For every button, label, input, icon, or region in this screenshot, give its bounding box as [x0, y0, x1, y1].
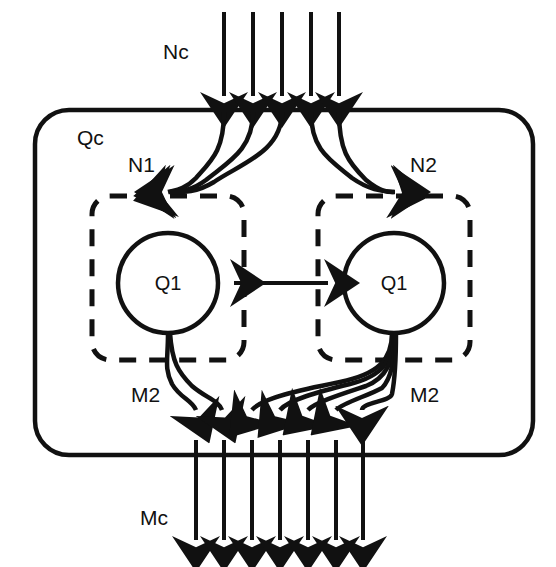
label-outer-system: Qc: [77, 126, 104, 149]
right-output-curve: [252, 333, 392, 410]
route-to-right-branch: [339, 112, 395, 192]
right-output-curves: [252, 333, 396, 410]
label-left-branch-input: N1: [128, 153, 155, 176]
right-output-curve: [280, 333, 393, 410]
queue-network-diagram: Nc Qc N1 N2 Q1 Q1 M2 M2 Mc: [0, 0, 556, 567]
label-left-node: Q1: [155, 272, 182, 294]
left-output-curves: [167, 333, 222, 410]
label-right-branch-output: M2: [410, 383, 439, 406]
left-output-curve: [170, 333, 222, 410]
label-left-branch-output: M2: [131, 383, 160, 406]
label-right-branch-input: N2: [410, 153, 437, 176]
route-to-left-branch: [170, 112, 282, 192]
label-right-node: Q1: [381, 272, 408, 294]
label-output-stream: Mc: [140, 506, 168, 529]
input-routing-curves: [168, 112, 395, 192]
diagram-canvas: Nc Qc N1 N2 Q1 Q1 M2 M2 Mc: [0, 0, 556, 567]
route-to-left-branch: [169, 112, 253, 192]
label-input-stream: Nc: [163, 40, 189, 63]
input-arrow-group: [224, 12, 339, 96]
route-to-right-branch: [311, 112, 394, 192]
